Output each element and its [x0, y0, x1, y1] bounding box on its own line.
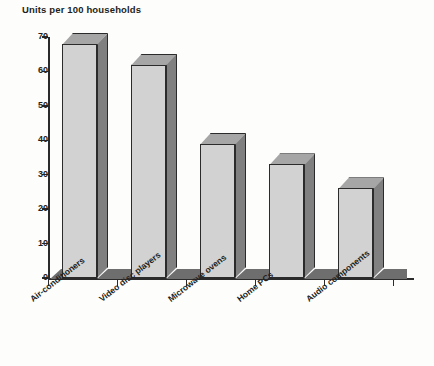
- bar: [62, 33, 108, 278]
- x-tick-mark: [393, 280, 394, 286]
- bar-side-face: [97, 33, 108, 278]
- y-tick-label: 40: [12, 134, 48, 144]
- bar-front-face: [62, 44, 97, 278]
- bar: [269, 153, 315, 278]
- y-tick-label: 0: [12, 272, 48, 282]
- bar-front-face: [269, 164, 304, 278]
- plot-area: 010203040506070 Air-conditionersVideo di…: [0, 0, 434, 366]
- bar: [131, 54, 177, 278]
- y-tick-label: 30: [12, 169, 48, 179]
- y-tick-label: 20: [12, 203, 48, 213]
- y-axis-line: [48, 37, 50, 279]
- y-tick-label: 60: [12, 65, 48, 75]
- y-tick-label: 10: [12, 238, 48, 248]
- bar-side-face: [373, 177, 384, 278]
- bar-side-face: [166, 54, 177, 278]
- y-tick-label: 50: [12, 100, 48, 110]
- y-tick-label: 70: [12, 31, 48, 41]
- bar-side-face: [304, 153, 315, 278]
- bar-chart: Units per 100 households 010203040506070…: [0, 0, 434, 366]
- bar-side-face: [235, 133, 246, 278]
- bar-front-face: [131, 65, 166, 278]
